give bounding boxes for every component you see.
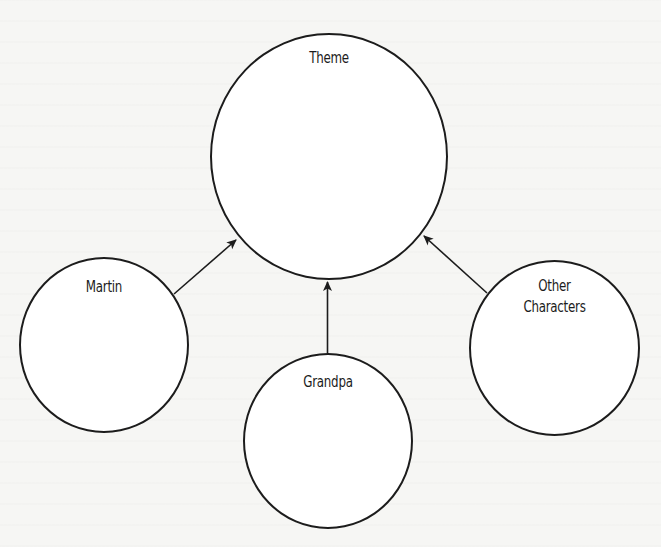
concept-web-diagram: Theme Martin Grandpa Other Characters [0, 0, 661, 547]
arrow-other-characters-to-theme [424, 236, 487, 293]
arrows-layer [0, 0, 661, 547]
arrow-martin-to-theme [174, 240, 236, 294]
